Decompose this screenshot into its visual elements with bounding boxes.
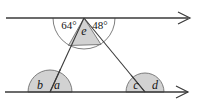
label-angle-e: e xyxy=(81,24,87,38)
geometry-figure: 64° 48° e b a c d xyxy=(0,0,197,106)
angles-diagram: 64° 48° e b a c d xyxy=(0,0,197,106)
label-angle-a: a xyxy=(54,78,60,92)
label-angle-b: b xyxy=(37,78,43,92)
label-angle-d: d xyxy=(152,78,159,92)
bottom-left-angle-shade xyxy=(28,70,72,92)
label-angle-64-degrees: 64° xyxy=(61,19,76,31)
label-angle-c: c xyxy=(133,78,139,92)
label-angle-48-degrees: 48° xyxy=(92,19,107,31)
